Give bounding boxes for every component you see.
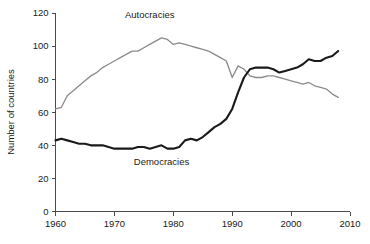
y-axis-title: Number of countries bbox=[5, 69, 16, 155]
series-label-democracies: Democracies bbox=[134, 156, 190, 167]
x-tick-label: 1970 bbox=[104, 218, 125, 229]
x-tick-label: 2000 bbox=[281, 218, 302, 229]
x-tick-label: 1990 bbox=[222, 218, 243, 229]
y-tick-label: 80 bbox=[38, 74, 49, 85]
y-tick-label: 40 bbox=[38, 140, 49, 151]
line-chart: 020406080100120 196019701980199020002010… bbox=[0, 0, 370, 244]
y-tick-label: 0 bbox=[43, 206, 48, 217]
y-tick-label: 120 bbox=[33, 7, 49, 18]
series-label-autocracies: Autocracies bbox=[125, 9, 175, 20]
y-tick-label: 20 bbox=[38, 173, 49, 184]
chart-container: 020406080100120 196019701980199020002010… bbox=[0, 0, 370, 244]
y-tick-label: 60 bbox=[38, 107, 49, 118]
y-tick-label: 100 bbox=[33, 40, 49, 51]
x-tick-label: 2010 bbox=[339, 218, 360, 229]
x-tick-label: 1980 bbox=[163, 218, 184, 229]
x-tick-label: 1960 bbox=[45, 218, 66, 229]
